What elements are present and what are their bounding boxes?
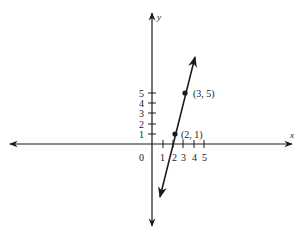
- x-tick-label-2: 2: [172, 152, 177, 163]
- x-axis-label: x: [289, 130, 294, 140]
- origin-label: 0: [139, 152, 144, 163]
- y-tick-label-3: 3: [139, 108, 144, 119]
- plotted-line: [160, 57, 195, 197]
- point-2-1: [172, 131, 177, 136]
- x-tick-label-5: 5: [202, 152, 207, 163]
- y-axis-label: y: [156, 12, 161, 22]
- point-3-5: [182, 90, 187, 95]
- y-tick-label-5: 5: [139, 88, 144, 99]
- x-tick-label-1: 1: [160, 152, 165, 163]
- x-tick-label-4: 4: [192, 152, 197, 163]
- y-tick-label-1: 1: [139, 129, 144, 140]
- y-tick-label-2: 2: [139, 119, 144, 130]
- point-2-1-label: (2, 1): [181, 129, 203, 141]
- y-tick-label-4: 4: [139, 98, 144, 109]
- coordinate-plane: x y 0 1 2 3 4 5 1 2 3 4 5 (2, 1) (3, 5): [0, 0, 303, 233]
- x-tick-label-3: 3: [181, 152, 186, 163]
- point-3-5-label: (3, 5): [193, 88, 215, 100]
